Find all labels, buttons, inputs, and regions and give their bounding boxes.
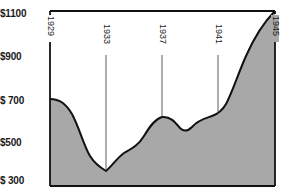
y-tick-label: $ 300 bbox=[0, 176, 40, 186]
x-tick-label: 1929 bbox=[46, 16, 55, 36]
y-tick-label: $900 bbox=[0, 52, 40, 62]
y-tick-label: $ 700 bbox=[0, 96, 40, 106]
y-tick-label: $500 bbox=[0, 138, 40, 148]
x-tick-label: 1945 bbox=[271, 16, 280, 36]
y-tick-label: $1100 bbox=[0, 9, 40, 19]
chart-canvas bbox=[0, 0, 281, 192]
x-tick-label: 1941 bbox=[214, 24, 223, 44]
x-tick-label: 1933 bbox=[102, 24, 111, 44]
x-tick-label: 1937 bbox=[158, 24, 167, 44]
